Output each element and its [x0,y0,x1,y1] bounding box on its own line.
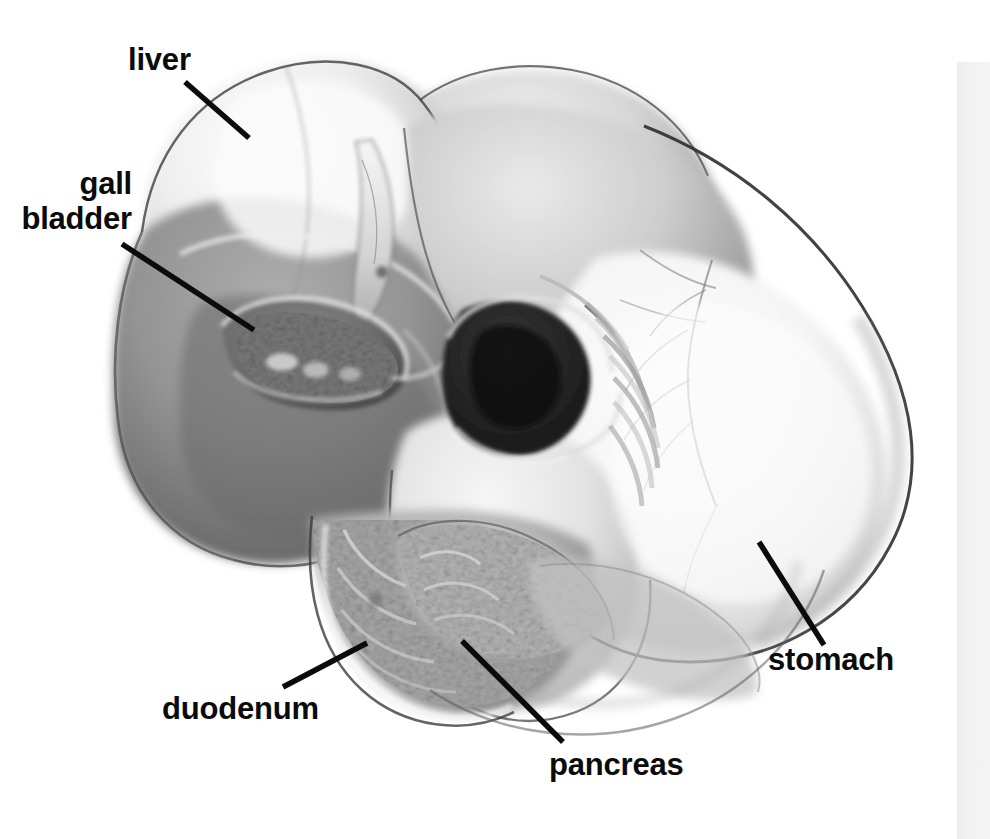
scan-page-edge-band [957,62,990,839]
label-gall-bladder-line1: gall [79,166,132,201]
label-stomach: stomach [768,642,894,677]
label-liver: liver [128,42,191,77]
anatomy-illustration [0,0,990,839]
label-gall-bladder-line2: bladder [21,201,132,236]
figure-page: liver gallbladder duodenum pancreas stom… [0,0,990,839]
label-pancreas: pancreas [549,747,684,782]
label-duodenum: duodenum [162,691,319,726]
label-gall-bladder: gallbladder [0,166,132,236]
